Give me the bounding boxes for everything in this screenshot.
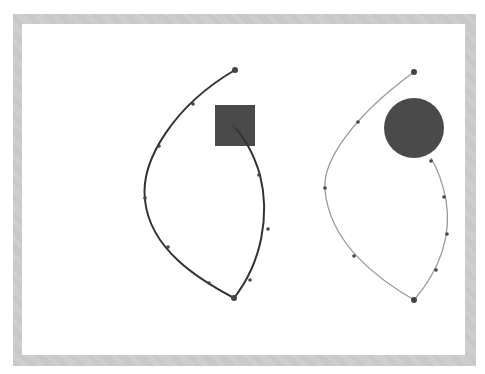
anchor-point[interactable] [231,295,237,301]
anchor-point[interactable] [248,278,252,282]
left-curve-anchor-points [143,67,270,301]
anchor-point[interactable] [231,123,237,129]
circle-highlight[interactable] [384,98,444,158]
diagram-svg [0,0,485,374]
anchor-point[interactable] [191,102,195,106]
anchor-point[interactable] [166,245,170,249]
anchor-point[interactable] [232,67,238,73]
right-curve-group [323,69,449,303]
anchor-point[interactable] [157,144,161,148]
anchor-point[interactable] [445,232,449,236]
anchor-point[interactable] [356,120,360,124]
anchor-point[interactable] [434,268,438,272]
anchor-point[interactable] [429,159,433,163]
anchor-point[interactable] [323,186,327,190]
left-curve-path[interactable] [145,70,265,298]
anchor-point[interactable] [442,195,446,199]
left-curve-group [143,67,270,301]
anchor-point[interactable] [266,227,270,231]
anchor-point[interactable] [352,254,356,258]
anchor-point[interactable] [411,297,417,303]
anchor-point[interactable] [143,196,147,200]
anchor-point[interactable] [257,173,261,177]
anchor-point[interactable] [207,281,211,285]
anchor-point[interactable] [411,69,417,75]
